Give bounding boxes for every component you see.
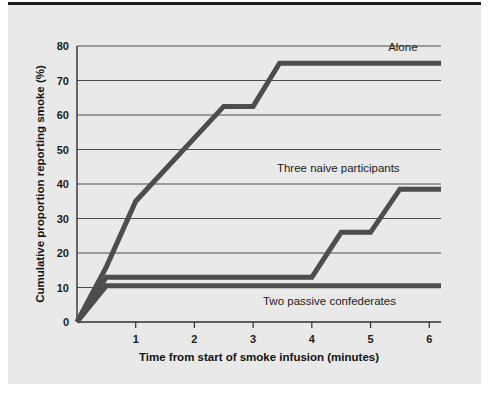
y-tick-label-20: 20 bbox=[57, 247, 69, 259]
y-tick-label-30: 30 bbox=[57, 213, 69, 225]
y-tick-label-60: 60 bbox=[57, 109, 69, 121]
y-tick-label-0: 0 bbox=[63, 316, 69, 328]
y-tick-labels: 01020304050607080 bbox=[57, 40, 69, 328]
y-tick-label-80: 80 bbox=[57, 40, 69, 52]
series-line-alone bbox=[77, 63, 441, 322]
figure-root: 01020304050607080 123456 AloneThree naiv… bbox=[0, 0, 489, 416]
y-tick-label-50: 50 bbox=[57, 144, 69, 156]
x-tick-labels: 123456 bbox=[133, 333, 433, 345]
line-chart: 01020304050607080 123456 AloneThree naiv… bbox=[0, 0, 489, 416]
series-lines bbox=[77, 63, 441, 322]
x-tick-label-1: 1 bbox=[133, 333, 139, 345]
x-tick-label-2: 2 bbox=[191, 333, 197, 345]
series-label-two-passive-confederates: Two passive confederates bbox=[263, 295, 396, 307]
x-tick-label-5: 5 bbox=[367, 333, 373, 345]
x-axis-ticks bbox=[136, 322, 430, 328]
x-tick-label-3: 3 bbox=[250, 333, 256, 345]
x-axis-title: Time from start of smoke infusion (minut… bbox=[139, 351, 379, 363]
y-tick-label-70: 70 bbox=[57, 75, 69, 87]
series-label-alone: Alone bbox=[388, 41, 417, 53]
y-tick-label-10: 10 bbox=[57, 282, 69, 294]
x-tick-label-6: 6 bbox=[426, 333, 432, 345]
series-label-three-naive-participants: Three naive participants bbox=[277, 162, 400, 174]
y-axis-title: Cumulative proportion reporting smoke (%… bbox=[34, 65, 46, 303]
x-tick-label-4: 4 bbox=[309, 333, 316, 345]
series-annotations: AloneThree naive participantsTwo passive… bbox=[263, 41, 418, 307]
y-tick-label-40: 40 bbox=[57, 178, 69, 190]
